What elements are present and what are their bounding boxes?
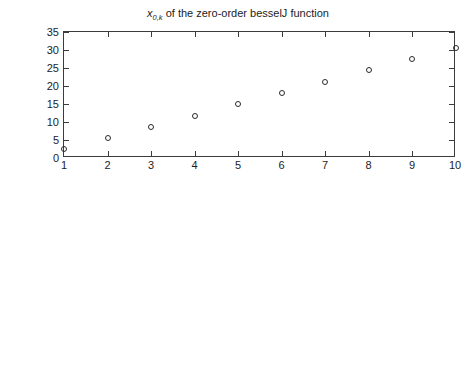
top-xtick-top-9 (412, 32, 413, 37)
top-ytick-right-20 (449, 86, 454, 87)
data-point (61, 146, 67, 152)
top-xtick-top-5 (238, 32, 239, 37)
top-ylabel-30: 30 (47, 44, 59, 56)
data-point (409, 56, 415, 62)
top-ytick-25 (64, 68, 69, 69)
top-ylabel-35: 35 (47, 26, 59, 38)
top-xlabel-7: 7 (322, 159, 328, 171)
top-xlabel-1: 1 (61, 159, 67, 171)
top-xtick-top-8 (369, 32, 370, 37)
top-axes-box: 35 30 25 20 15 10 5 0 (63, 31, 455, 157)
top-xtick-top-7 (325, 32, 326, 37)
top-xtick-3 (151, 151, 152, 156)
data-point (105, 135, 111, 141)
top-xlabel-4: 4 (191, 159, 197, 171)
top-xlabel-3: 3 (148, 159, 154, 171)
top-xlabel-9: 9 (409, 159, 415, 171)
top-ytick-right-5 (449, 140, 454, 141)
top-ytick-5 (64, 140, 69, 141)
top-plot-panel: x0,k of the zero-order besselJ function … (0, 0, 476, 189)
top-plot-title: x0,k of the zero-order besselJ function (0, 7, 476, 20)
top-xlabel-6: 6 (278, 159, 284, 171)
bottom-plot-panel: Error in approximate values of the zeros… (0, 189, 476, 378)
top-xlabel-10: 10 (449, 159, 461, 171)
data-point (235, 101, 241, 107)
data-point (148, 124, 154, 130)
top-ytick-right-25 (449, 68, 454, 69)
top-ytick-right-10 (449, 122, 454, 123)
top-xtick-2 (108, 151, 109, 156)
top-xtick-5 (238, 151, 239, 156)
top-ytick-right-35 (449, 32, 454, 33)
top-ylabel-20: 20 (47, 80, 59, 92)
title-subscript: 0,k (153, 13, 163, 22)
data-point (322, 79, 328, 85)
data-point (366, 67, 372, 73)
title-rest: of the zero-order besselJ function (163, 7, 329, 19)
matlab-figure: x0,k of the zero-order besselJ function … (0, 0, 476, 378)
top-ylabel-15: 15 (47, 98, 59, 110)
top-xlabel-2: 2 (104, 159, 110, 171)
top-xtick-top-6 (282, 32, 283, 37)
top-ylabel-0: 0 (53, 152, 59, 164)
top-ytick-35 (64, 32, 69, 33)
top-ylabel-5: 5 (53, 134, 59, 146)
top-xtick-top-3 (151, 32, 152, 37)
top-ytick-15 (64, 104, 69, 105)
top-xlabel-8: 8 (365, 159, 371, 171)
data-point (192, 113, 198, 119)
top-ytick-30 (64, 50, 69, 51)
top-ylabel-25: 25 (47, 62, 59, 74)
top-xlabel-5: 5 (235, 159, 241, 171)
top-xtick-8 (369, 151, 370, 156)
top-xtick-9 (412, 151, 413, 156)
top-ytick-10 (64, 122, 69, 123)
top-xtick-4 (195, 151, 196, 156)
top-xtick-6 (282, 151, 283, 156)
data-point (279, 90, 285, 96)
top-ytick-right-15 (449, 104, 454, 105)
top-xtick-top-4 (195, 32, 196, 37)
data-point (453, 45, 459, 51)
top-ylabel-10: 10 (47, 116, 59, 128)
top-ytick-20 (64, 86, 69, 87)
top-xtick-7 (325, 151, 326, 156)
top-xtick-top-2 (108, 32, 109, 37)
